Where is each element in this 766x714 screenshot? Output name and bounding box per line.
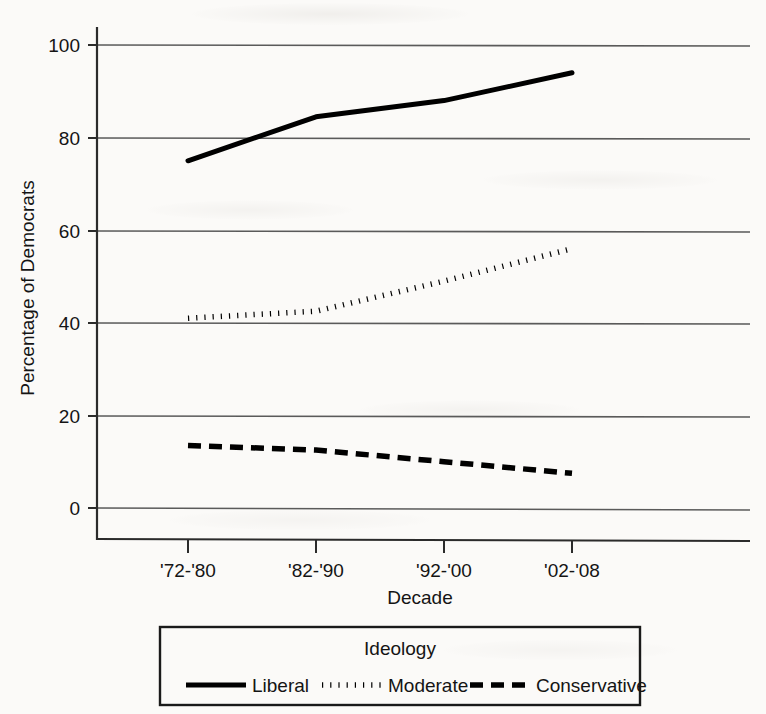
x-tick-label-3: '02-'08 [544,560,600,581]
y-tick-label-40: 40 [59,313,80,334]
liberal-line [188,73,572,161]
legend-title: Ideology [364,638,436,659]
x-tick-label-0: '72-'80 [160,560,216,581]
y-tick-label-0: 0 [69,498,80,519]
x-tick-label-1: '82-'90 [288,560,344,581]
gridline-20 [96,416,750,417]
conservative-line [188,446,572,474]
gridlines [96,45,750,510]
x-axis-tick-labels: '72-'80 '82-'90 '92-'00 '02-'08 [160,560,600,581]
series-conservative [188,446,572,474]
legend-label-moderate[interactable]: Moderate [388,675,468,696]
gridline-80 [96,138,750,139]
moderate-line [188,249,572,319]
x-tick-label-2: '92-'00 [416,560,472,581]
x-axis-spine [96,539,750,541]
y-axis-ticks [88,45,97,508]
series-liberal [188,73,572,161]
chart-page: 100 80 60 40 20 0 '72-'80 '82-'90 '92-'0… [0,0,766,714]
gridline-0 [96,508,750,510]
y-tick-label-20: 20 [59,406,80,427]
line-chart: 100 80 60 40 20 0 '72-'80 '82-'90 '92-'0… [0,0,766,714]
legend[interactable]: Ideology Liberal Moderate Conservative [160,627,647,705]
y-tick-label-60: 60 [59,221,80,242]
legend-label-conservative[interactable]: Conservative [536,675,647,696]
gridline-40 [96,323,750,324]
x-axis-ticks [188,540,572,553]
gridline-60 [96,231,750,232]
gridline-100 [96,45,750,46]
legend-label-liberal[interactable]: Liberal [252,675,309,696]
y-axis-tick-labels: 100 80 60 40 20 0 [48,35,80,519]
y-tick-label-80: 80 [59,128,80,149]
y-axis-title: Percentage of Democrats [17,180,38,395]
series-moderate [188,249,572,319]
y-tick-label-100: 100 [48,35,80,56]
x-axis-title: Decade [387,587,453,608]
